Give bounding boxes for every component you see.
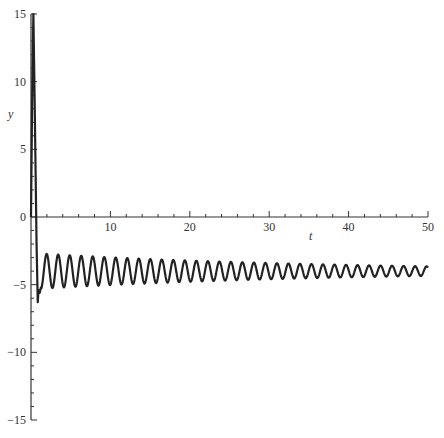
data-line (31, 14, 428, 302)
y-tick-label: −15 (7, 413, 26, 427)
x-tick-label: 50 (422, 220, 434, 234)
x-tick-label: 40 (343, 220, 355, 234)
x-tick-label: 10 (104, 220, 116, 234)
x-tick-label: 20 (184, 220, 196, 234)
chart: 1020304050151050−5−10−15 t y (0, 0, 444, 438)
y-tick-label: 5 (20, 142, 26, 156)
y-tick-label: −5 (13, 278, 26, 292)
y-tick-label: 0 (20, 210, 26, 224)
axes (31, 14, 428, 420)
y-tick-label: 15 (14, 7, 26, 21)
x-tick-label: 30 (263, 220, 275, 234)
y-tick-label: −10 (7, 345, 26, 359)
y-axis-label: y (7, 107, 14, 121)
x-axis-label: t (309, 229, 313, 243)
y-tick-label: 10 (14, 75, 26, 89)
